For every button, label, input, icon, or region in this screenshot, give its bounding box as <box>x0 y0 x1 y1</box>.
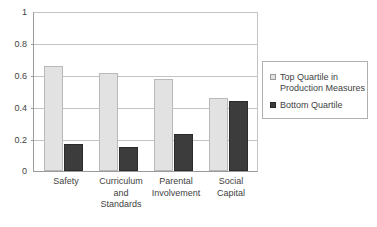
bottom-quartile-swatch-icon <box>270 102 276 108</box>
bar-group-safety <box>44 13 90 171</box>
bar-bottom-quartile <box>174 134 193 171</box>
legend-label: Top Quartile in Production Measures <box>280 72 365 94</box>
y-tick-label: 0.2 <box>14 136 27 145</box>
plot-area <box>33 12 258 172</box>
legend-item-top-quartile: Top Quartile in Production Measures <box>270 72 365 94</box>
y-axis: 1 0.8 0.6 0.4 0.2 0 <box>0 0 32 227</box>
legend-label: Bottom Quartile <box>280 100 343 111</box>
bar-group-social-capital <box>209 13 255 171</box>
y-tick-label: 0 <box>22 167 27 176</box>
y-tick-label: 0.6 <box>14 72 27 81</box>
legend-item-bottom-quartile: Bottom Quartile <box>270 100 343 111</box>
bar-bottom-quartile <box>229 101 248 171</box>
legend: Top Quartile in Production Measures Bott… <box>262 61 368 119</box>
bar-top-quartile <box>99 73 118 171</box>
y-tick-label: 0.8 <box>14 40 27 49</box>
x-axis: Safety Curriculum and Standards Parental… <box>33 176 258 226</box>
top-quartile-swatch-icon <box>270 74 276 80</box>
y-tick-label: 0.4 <box>14 104 27 113</box>
bar-top-quartile <box>44 66 63 171</box>
bar-top-quartile <box>209 98 228 171</box>
bar-top-quartile <box>154 79 173 171</box>
bar-bottom-quartile <box>64 144 83 171</box>
y-tick-label: 1 <box>22 8 27 17</box>
x-cat-label-social-capital: Social Capital <box>198 176 264 199</box>
bar-chart: 1 0.8 0.6 0.4 0.2 0 <box>0 0 377 227</box>
bar-group-parental-involvement <box>154 13 200 171</box>
bars-layer <box>34 13 257 171</box>
bar-group-curriculum-and-standards <box>99 13 145 171</box>
bar-bottom-quartile <box>119 147 138 171</box>
